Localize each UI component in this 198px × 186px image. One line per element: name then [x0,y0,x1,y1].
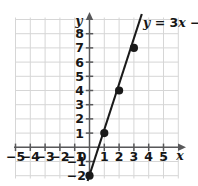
data-point [115,86,123,94]
y-tick-label: 4 [75,83,84,98]
x-tick-label: 1 [100,149,109,164]
y-tick-label: 6 [75,55,84,70]
equation-equals: = [155,15,165,30]
equation-label: y = 3x − 2 [142,15,198,30]
equation-slope: 3 [169,15,178,30]
data-point [130,44,138,52]
y-tick-label: 1 [75,126,84,141]
x-tick-label: 3 [130,149,139,164]
y-tick-label: 3 [75,97,84,112]
x-tick-label: 5 [159,149,168,164]
x-tick-label: 4 [144,149,153,164]
coordinate-graph-figure: −5 −4 −3 −2 −1 1 2 3 4 5 0 8 7 6 5 4 3 2… [0,0,198,186]
y-tick-label: 5 [75,69,84,84]
y-axis-arrow [86,12,93,20]
plot-area: −5 −4 −3 −2 −1 1 2 3 4 5 0 8 7 6 5 4 3 2… [0,0,198,186]
data-point [85,172,93,180]
y-tick-label: −1 [67,154,86,169]
equation-minus: − [190,15,198,30]
x-axis-label: x [175,148,184,163]
y-tick-label: 7 [75,40,84,55]
y-tick-label: 8 [75,26,84,41]
y-axis-label: y [74,13,83,28]
y-tick-label: 2 [75,111,84,126]
data-point [100,129,108,137]
y-tick-label: −2 [67,168,86,183]
x-tick-label: 2 [115,149,124,164]
